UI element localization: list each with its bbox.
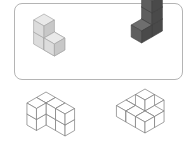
wireframe-option-right — [0, 0, 193, 162]
